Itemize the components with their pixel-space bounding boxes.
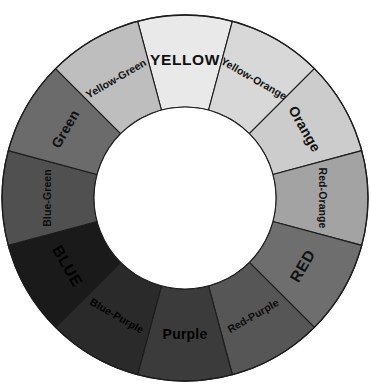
segment-label-purple: Purple <box>163 326 208 342</box>
wheel-center-hub <box>94 107 276 289</box>
color-wheel-canvas: YELLOWYellow-OrangeOrangeRed-OrangeREDRe… <box>0 0 371 389</box>
segment-label-red-orange: Red-Orange <box>317 167 329 228</box>
color-wheel-diagram: YELLOWYellow-OrangeOrangeRed-OrangeREDRe… <box>0 0 371 389</box>
segment-label-yellow: YELLOW <box>150 51 220 68</box>
segment-label-blue-green: Blue-Green <box>41 169 53 227</box>
